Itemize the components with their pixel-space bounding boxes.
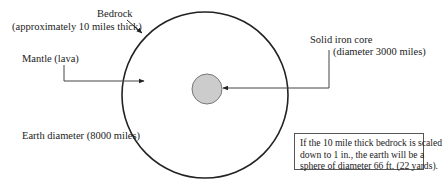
mantle-label: Mantle (lava) xyxy=(22,53,79,65)
scale-note-box: If the 10 mile thick bedrock is scaled d… xyxy=(294,133,424,170)
iron-core-circle xyxy=(192,74,222,104)
core-label: Solid iron core xyxy=(310,34,372,46)
note-line: sphere of diameter 66 ft. (22 yards). xyxy=(300,160,418,172)
note-line: down to 1 in., the earth will be a xyxy=(300,149,418,161)
bedrock-label: Bedrock xyxy=(97,8,133,20)
bedrock-detail-label: (approximately 10 miles thick) xyxy=(12,21,142,33)
earth-diameter-label: Earth diameter (8000 miles) xyxy=(22,130,140,142)
note-line: If the 10 mile thick bedrock is scaled xyxy=(300,137,418,149)
core-detail-label: (diameter 3000 miles) xyxy=(333,46,426,58)
